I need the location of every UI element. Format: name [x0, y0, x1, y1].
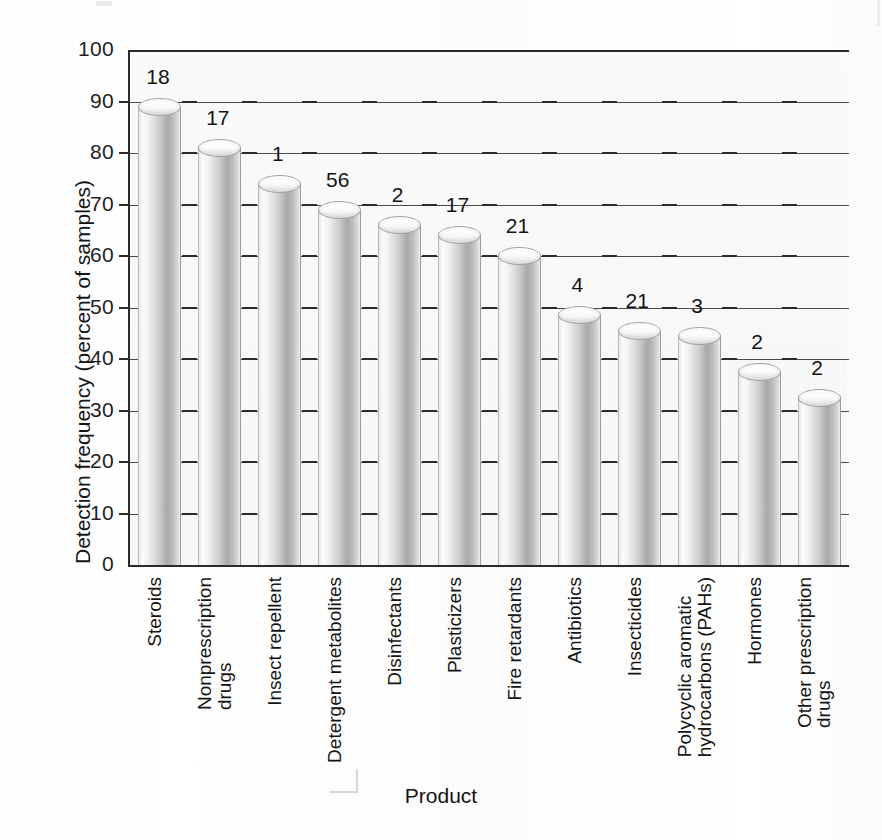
x-axis-category-label: Insect repellent [265, 577, 285, 706]
scanned-page: Detection frequency (percent of samples)… [0, 0, 882, 840]
bar-top-highlight [502, 251, 537, 261]
inner-tick-mark [182, 410, 197, 412]
inner-tick-mark [482, 101, 497, 103]
inner-tick-mark [782, 101, 797, 103]
category-label-line: Steroids [145, 577, 165, 647]
category-label-line: Insect repellent [265, 577, 285, 706]
category-label-line: hydrocarbons (PAHs) [695, 577, 715, 757]
inner-tick-mark [422, 307, 437, 309]
inner-tick-mark [362, 101, 377, 103]
inner-tick-mark [422, 152, 437, 154]
inner-tick-mark [302, 513, 317, 515]
y-axis-tick-label: 70 [50, 192, 114, 216]
inner-tick-mark [602, 410, 617, 412]
inner-tick-mark [602, 152, 617, 154]
bar-top-highlight [322, 205, 357, 215]
y-axis-tick-label: 50 [50, 295, 114, 319]
y-axis-tick-mark [119, 152, 128, 154]
bar-top-highlight [202, 143, 237, 153]
inner-tick-mark [662, 358, 677, 360]
inner-tick-mark [662, 461, 677, 463]
inner-tick-mark [662, 204, 677, 206]
bar [438, 235, 481, 565]
inner-tick-mark [542, 307, 557, 309]
x-axis-line [128, 565, 849, 567]
inner-tick-mark [782, 307, 797, 309]
bar-top-highlight [682, 331, 717, 341]
inner-tick-mark [302, 461, 317, 463]
inner-tick-mark [242, 204, 257, 206]
bar-top-ellipse [558, 306, 601, 324]
bar-top-ellipse [198, 139, 241, 157]
inner-tick-mark [302, 255, 317, 257]
bar [618, 331, 661, 565]
inner-tick-mark [662, 101, 677, 103]
bar-top-ellipse [378, 216, 421, 234]
category-label-line: Hormones [745, 577, 765, 665]
category-label-line: Disinfectants [385, 577, 405, 686]
x-axis-title: Product [0, 784, 882, 808]
inner-tick-mark [362, 461, 377, 463]
bar-top-ellipse [678, 327, 721, 345]
x-axis-category-label: Other prescriptiondrugs [795, 577, 835, 728]
inner-tick-mark [662, 410, 677, 412]
bar-value-label: 21 [482, 214, 553, 238]
bar-top-highlight [622, 326, 657, 336]
y-axis-tick-label: 80 [50, 140, 114, 164]
inner-tick-mark [722, 513, 737, 515]
inner-tick-mark [542, 358, 557, 360]
inner-tick-mark [422, 513, 437, 515]
category-label-line: drugs [814, 577, 834, 728]
inner-tick-mark [482, 152, 497, 154]
bar-value-label: 3 [662, 294, 733, 318]
y-axis-tick-label: 20 [50, 449, 114, 473]
x-axis-category-label: Detergent metabolites [325, 577, 345, 763]
inner-tick-mark [722, 410, 737, 412]
inner-tick-mark [662, 152, 677, 154]
y-axis-tick-label: 90 [50, 89, 114, 113]
inner-tick-mark [182, 358, 197, 360]
x-axis-category-label: Antibiotics [565, 577, 585, 664]
category-label-line: Insecticides [625, 577, 645, 676]
inner-tick-mark [482, 410, 497, 412]
y-axis-tick-mark [119, 461, 128, 463]
bar [678, 336, 721, 565]
inner-tick-mark [422, 410, 437, 412]
y-axis-tick-label: 60 [50, 243, 114, 267]
inner-tick-mark [302, 410, 317, 412]
inner-tick-mark [782, 204, 797, 206]
bar-value-label: 17 [182, 106, 253, 130]
x-axis-category-label: Plasticizers [445, 577, 465, 673]
inner-tick-mark [542, 461, 557, 463]
inner-tick-mark [602, 358, 617, 360]
inner-tick-mark [602, 101, 617, 103]
bar-top-highlight [802, 393, 837, 403]
inner-tick-mark [482, 307, 497, 309]
inner-tick-mark [242, 410, 257, 412]
bar-value-label: 2 [782, 356, 853, 380]
bar-top-highlight [742, 367, 777, 377]
inner-tick-mark [362, 255, 377, 257]
inner-tick-mark [722, 358, 737, 360]
y-axis-tick-mark [119, 255, 128, 257]
inner-tick-mark [482, 513, 497, 515]
inner-tick-mark [722, 255, 737, 257]
y-axis-tick-mark [119, 307, 128, 309]
inner-tick-mark [182, 513, 197, 515]
inner-tick-mark [602, 255, 617, 257]
bar-value-label: 2 [722, 330, 793, 354]
x-axis-category-label: Insecticides [625, 577, 645, 676]
inner-tick-mark [482, 255, 497, 257]
inner-tick-mark [242, 101, 257, 103]
inner-tick-mark [182, 204, 197, 206]
y-axis-tick-label: 0 [50, 552, 114, 576]
bar-top-highlight [262, 179, 297, 189]
inner-tick-mark [182, 307, 197, 309]
bar [138, 107, 181, 565]
inner-tick-mark [182, 101, 197, 103]
inner-tick-mark [422, 255, 437, 257]
gridline [130, 50, 849, 52]
bar [558, 315, 601, 565]
inner-tick-mark [362, 152, 377, 154]
category-label-line: Detergent metabolites [325, 577, 345, 763]
